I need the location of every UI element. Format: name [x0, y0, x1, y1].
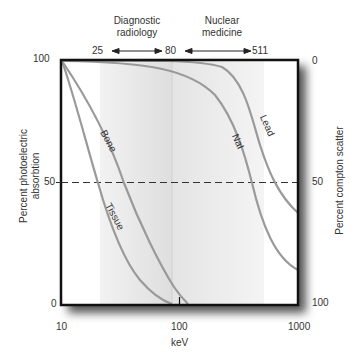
- y-left-tick-0: 0: [51, 298, 57, 309]
- x-tick-label-1000: 1000: [288, 321, 310, 332]
- region-label-line: Diagnostic: [112, 15, 162, 27]
- region-label-line: Nuclear: [197, 15, 247, 27]
- y-right-tick-0: 0: [312, 55, 318, 66]
- marker-80: 80: [165, 45, 176, 56]
- marker-511: 511: [252, 45, 268, 56]
- marker-25: 25: [92, 45, 103, 56]
- y-left-tick-50: 50: [44, 176, 55, 187]
- arrowhead-right-icon: [244, 49, 251, 54]
- region-label-diagnostic: Diagnostic radiology: [112, 15, 162, 39]
- y-axis-label-right: Percent compton scatter: [334, 121, 345, 241]
- x-tick-label-10: 10: [56, 321, 67, 332]
- y-right-tick-100: 100: [312, 297, 329, 308]
- y-left-tick-100: 100: [33, 53, 50, 64]
- region-label-nuclear: Nuclear medicine: [197, 15, 247, 39]
- region-label-line: medicine: [197, 27, 247, 39]
- region-label-line: radiology: [112, 27, 162, 39]
- y-axis-label-left: Percent photoelectric absorbtion: [18, 116, 42, 236]
- x-axis-label: keV: [171, 337, 188, 348]
- arrowhead-left-icon: [112, 49, 119, 54]
- arrowhead-left-icon: [185, 49, 192, 54]
- arrowhead-right-icon: [155, 49, 162, 54]
- y-axis-label-line: Percent photoelectric: [18, 116, 30, 236]
- y-right-tick-50: 50: [312, 176, 323, 187]
- x-tick-label-100: 100: [171, 321, 188, 332]
- y-axis-label-line: absorbtion: [30, 116, 42, 236]
